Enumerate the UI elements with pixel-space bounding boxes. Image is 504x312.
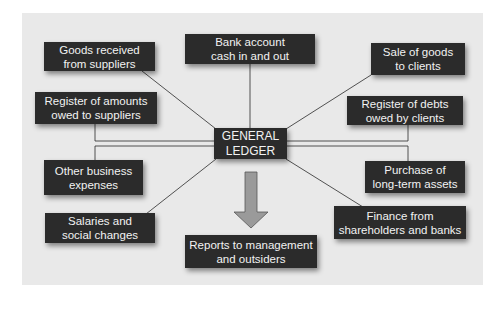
connector-register-debts [287, 125, 408, 141]
connector-register-amounts-owed [95, 124, 214, 141]
node-other-expenses: Other business expenses [44, 160, 143, 195]
node-register-debts: Register of debts owed by clients [347, 96, 463, 125]
connector-purchase-assets [287, 146, 408, 161]
connector-other-expenses [95, 146, 214, 160]
node-finance: Finance from shareholders and banks [334, 206, 466, 239]
node-salaries: Salaries and social changes [45, 213, 155, 243]
node-register-amounts-owed: Register of amounts owed to suppliers [35, 92, 157, 124]
connector-salaries [146, 159, 216, 214]
node-purchase-assets: Purchase of long-term assets [365, 161, 465, 193]
node-bank-account: Bank account cash in and out [185, 34, 315, 64]
connector-finance [286, 159, 363, 207]
node-sale-of-goods: Sale of goods to clients [371, 43, 465, 75]
down-arrow-icon [234, 172, 268, 228]
node-reports: Reports to management and outsiders [185, 235, 317, 268]
node-goods-received: Goods received from suppliers [44, 42, 155, 71]
node-general-ledger: GENERAL LEDGER [214, 128, 287, 159]
